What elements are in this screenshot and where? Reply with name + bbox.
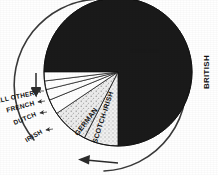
label-english: ENGLISH <box>131 48 160 54</box>
pie-chart-figure: ENGLISH SCOTCH-IRISH GERMAN IRISH DUTCH … <box>0 0 218 175</box>
pie-slices <box>44 0 192 146</box>
label-british-bracket: BRITISH <box>202 55 211 89</box>
pie-chart-svg: ENGLISH SCOTCH-IRISH GERMAN IRISH DUTCH … <box>0 0 218 175</box>
